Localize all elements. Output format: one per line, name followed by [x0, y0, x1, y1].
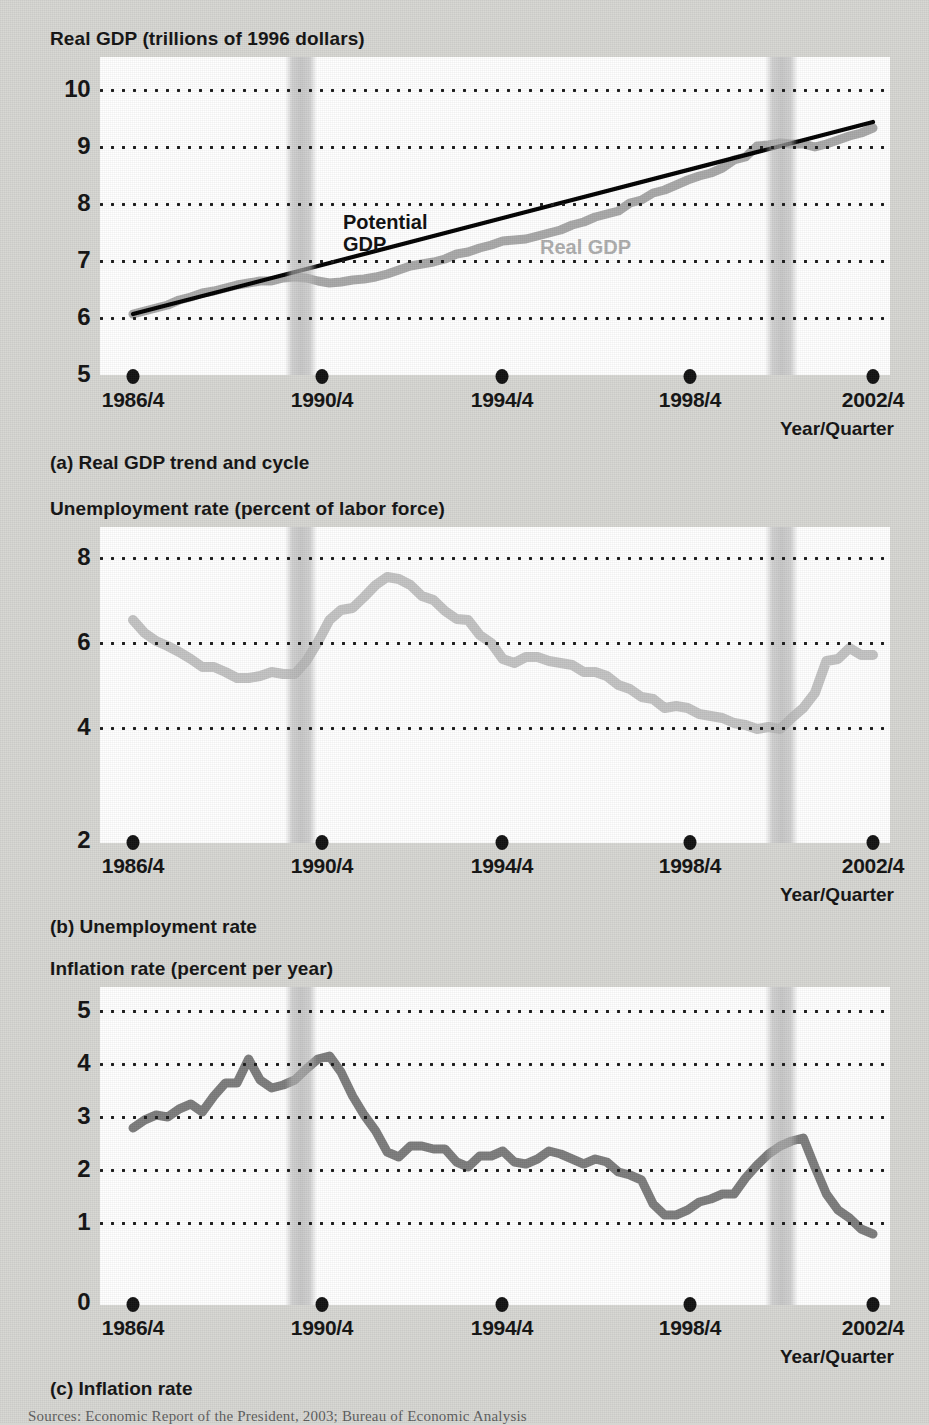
- panel-b-axis-title: Unemployment rate (percent of labor forc…: [50, 498, 445, 520]
- panel-a-xdot-4: [867, 369, 880, 384]
- panel-b-xlabel-3: 1998/4: [659, 854, 721, 878]
- panel-a-xdot-3: [684, 369, 697, 384]
- gridline-3: [100, 1116, 890, 1119]
- panel-b-caption: (b) Unemployment rate: [50, 916, 257, 938]
- panel-c-x-axis-caption: Year/Quarter: [780, 1346, 894, 1368]
- panel-b-xdot-2: [496, 835, 509, 850]
- panel-unemployment: Unemployment rate (percent of labor forc…: [0, 480, 929, 945]
- panel-a-xlabel-4: 2002/4: [842, 388, 904, 412]
- panel-c-xlabel-4: 2002/4: [842, 1316, 904, 1340]
- panel-b-xdot-0: [127, 835, 140, 850]
- panel-c-xdot-3: [684, 1297, 697, 1312]
- gridline-4: [100, 727, 890, 730]
- recession-band-2001: [765, 987, 798, 1305]
- panel-a-xlabel-0: 1986/4: [102, 388, 164, 412]
- panel-b-xlabel-4: 2002/4: [842, 854, 904, 878]
- gridline-10: [100, 89, 890, 92]
- panel-c-xdot-2: [496, 1297, 509, 1312]
- panel-b-xlabel-0: 1986/4: [102, 854, 164, 878]
- panel-b-x-axis-caption: Year/Quarter: [780, 884, 894, 906]
- panel-c-axis-title: Inflation rate (percent per year): [50, 958, 333, 980]
- gridline-1: [100, 1222, 890, 1225]
- gridline-2: [100, 1169, 890, 1172]
- gridline-6: [100, 317, 890, 320]
- panel-b-ytick-4: 4: [40, 713, 90, 741]
- panel-c-ytick-3: 3: [40, 1102, 90, 1130]
- figure-source: Sources: Economic Report of the Presiden…: [28, 1408, 527, 1425]
- panel-b-ytick-2: 2: [40, 826, 90, 854]
- potential-gdp-label: Potential GDP: [343, 211, 427, 256]
- panel-c-xlabel-2: 1994/4: [471, 1316, 533, 1340]
- panel-a-xdot-1: [316, 369, 329, 384]
- panel-c-caption: (c) Inflation rate: [50, 1378, 193, 1400]
- panel-a-xlabel-3: 1998/4: [659, 388, 721, 412]
- panel-c-xdot-1: [316, 1297, 329, 1312]
- panel-a-ytick-6: 6: [40, 303, 90, 331]
- panel-a-axis-title: Real GDP (trillions of 1996 dollars): [50, 28, 365, 50]
- panel-c-xlabel-0: 1986/4: [102, 1316, 164, 1340]
- gridline-6: [100, 642, 890, 645]
- panel-real-gdp: Real GDP (trillions of 1996 dollars) 10 …: [0, 0, 929, 480]
- panel-c-xdot-4: [867, 1297, 880, 1312]
- real-gdp-label: Real GDP: [540, 236, 631, 258]
- panel-a-xlabel-2: 1994/4: [471, 388, 533, 412]
- potential-gdp-line: [133, 122, 873, 314]
- panel-b-xlabel-1: 1990/4: [291, 854, 353, 878]
- panel-b-xdot-4: [867, 835, 880, 850]
- panel-c-ytick-4: 4: [40, 1049, 90, 1077]
- gridline-8: [100, 203, 890, 206]
- panel-a-ytick-8: 8: [40, 189, 90, 217]
- panel-c-ytick-1: 1: [40, 1208, 90, 1236]
- inflation-line: [133, 1056, 873, 1234]
- panel-a-ytick-10: 10: [40, 75, 90, 103]
- panel-a-xlabel-1: 1990/4: [291, 388, 353, 412]
- panel-a-plot-area: [100, 57, 890, 375]
- panel-b-ytick-8: 8: [40, 543, 90, 571]
- panel-c-ytick-5: 5: [40, 996, 90, 1024]
- panel-b-plot-area: [100, 527, 890, 843]
- panel-c-plot-area: [100, 987, 890, 1305]
- panel-a-caption: (a) Real GDP trend and cycle: [50, 452, 309, 474]
- gridline-4: [100, 1063, 890, 1066]
- panel-b-ytick-6: 6: [40, 628, 90, 656]
- panel-a-ytick-5: 5: [40, 360, 90, 388]
- panel-b-xdot-3: [684, 835, 697, 850]
- panel-c-xdot-0: [127, 1297, 140, 1312]
- recession-band-1990: [285, 527, 317, 843]
- gridline-9: [100, 146, 890, 149]
- gridline-7: [100, 260, 890, 263]
- panel-c-xlabel-3: 1998/4: [659, 1316, 721, 1340]
- recession-band-1990: [285, 57, 317, 375]
- gridline-8: [100, 557, 890, 560]
- panel-a-ytick-9: 9: [40, 132, 90, 160]
- recession-band-2001: [765, 57, 798, 375]
- gridline-5: [100, 1010, 890, 1013]
- unemployment-line: [133, 577, 873, 729]
- panel-a-xdot-2: [496, 369, 509, 384]
- panel-a-xdot-0: [127, 369, 140, 384]
- panel-b-xlabel-2: 1994/4: [471, 854, 533, 878]
- panel-a-ytick-7: 7: [40, 246, 90, 274]
- panel-c-ytick-2: 2: [40, 1155, 90, 1183]
- recession-band-1990: [285, 987, 317, 1305]
- recession-band-2001: [765, 527, 798, 843]
- panel-c-xlabel-1: 1990/4: [291, 1316, 353, 1340]
- panel-a-x-axis-caption: Year/Quarter: [780, 418, 894, 440]
- panel-b-xdot-1: [316, 835, 329, 850]
- panel-inflation: Inflation rate (percent per year) 5 4 3 …: [0, 945, 929, 1423]
- panel-c-ytick-0: 0: [40, 1288, 90, 1316]
